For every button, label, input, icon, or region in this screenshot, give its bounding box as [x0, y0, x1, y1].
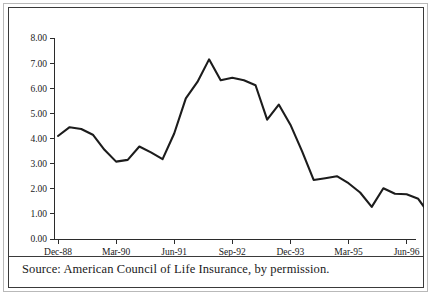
chart-plot-area: 8.007.006.005.004.003.002.001.000.00Dec-…	[8, 7, 424, 288]
y-tick-label: 7.00	[30, 59, 47, 69]
y-tick-label: 5.00	[30, 109, 47, 119]
y-tick-label: 6.00	[30, 84, 47, 94]
y-tick-label: 4.00	[30, 134, 47, 144]
y-tick-label: 8.00	[30, 33, 47, 43]
figure-container: 8.007.006.005.004.003.002.001.000.00Dec-…	[0, 0, 431, 295]
y-tick-label: 1.00	[30, 209, 47, 219]
source-caption: Source: American Council of Life Insuran…	[22, 261, 422, 277]
data-series-line	[58, 59, 424, 215]
y-tick-label: 2.00	[30, 184, 47, 194]
y-tick-label: 0.00	[30, 234, 47, 244]
caption-divider	[8, 256, 424, 257]
line-chart: 8.007.006.005.004.003.002.001.000.00Dec-…	[8, 7, 424, 257]
y-tick-label: 3.00	[30, 159, 47, 169]
